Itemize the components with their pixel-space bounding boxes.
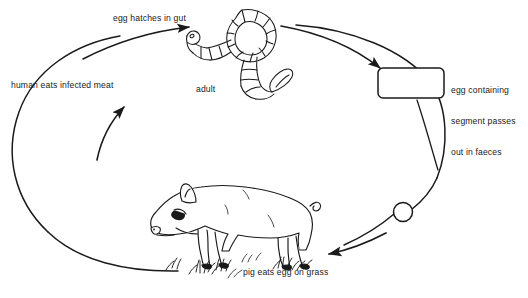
- arrow-egg-to-pig: [329, 233, 386, 254]
- label-pig-eats-egg-on-grass: pig eats egg on grass: [243, 267, 328, 277]
- pig-illustration: [151, 184, 321, 270]
- label-human-eats-infected-meat: human eats infected meat: [11, 80, 114, 90]
- diagram-canvas: [0, 0, 528, 298]
- label-egg-segment-line-3: out in faeces: [451, 147, 516, 157]
- arrow-pig-to-human: [97, 107, 124, 160]
- label-egg-containing-segment: egg containing segment passes out in fae…: [451, 64, 516, 178]
- arrow-adult-to-segment: [281, 26, 380, 68]
- cycle-arc-bottom-right-upper: [411, 178, 437, 210]
- tapeworm-egg-circle: [394, 203, 413, 222]
- cycle-arc-left: [12, 36, 120, 232]
- label-adult: adult: [196, 84, 215, 94]
- tapeworm-life-cycle-diagram: egg hatches in gut human eats infected m…: [0, 0, 528, 298]
- arrow-egg-hatches: [83, 27, 189, 59]
- label-egg-segment-line-2: segment passes: [451, 116, 516, 126]
- proglottid-segment-box: [378, 68, 444, 98]
- label-egg-segment-line-1: egg containing: [451, 85, 516, 95]
- label-egg-hatches-in-gut: egg hatches in gut: [113, 13, 186, 23]
- cycle-arc-bottom-left: [48, 232, 178, 271]
- segment-to-egg-line: [417, 100, 438, 170]
